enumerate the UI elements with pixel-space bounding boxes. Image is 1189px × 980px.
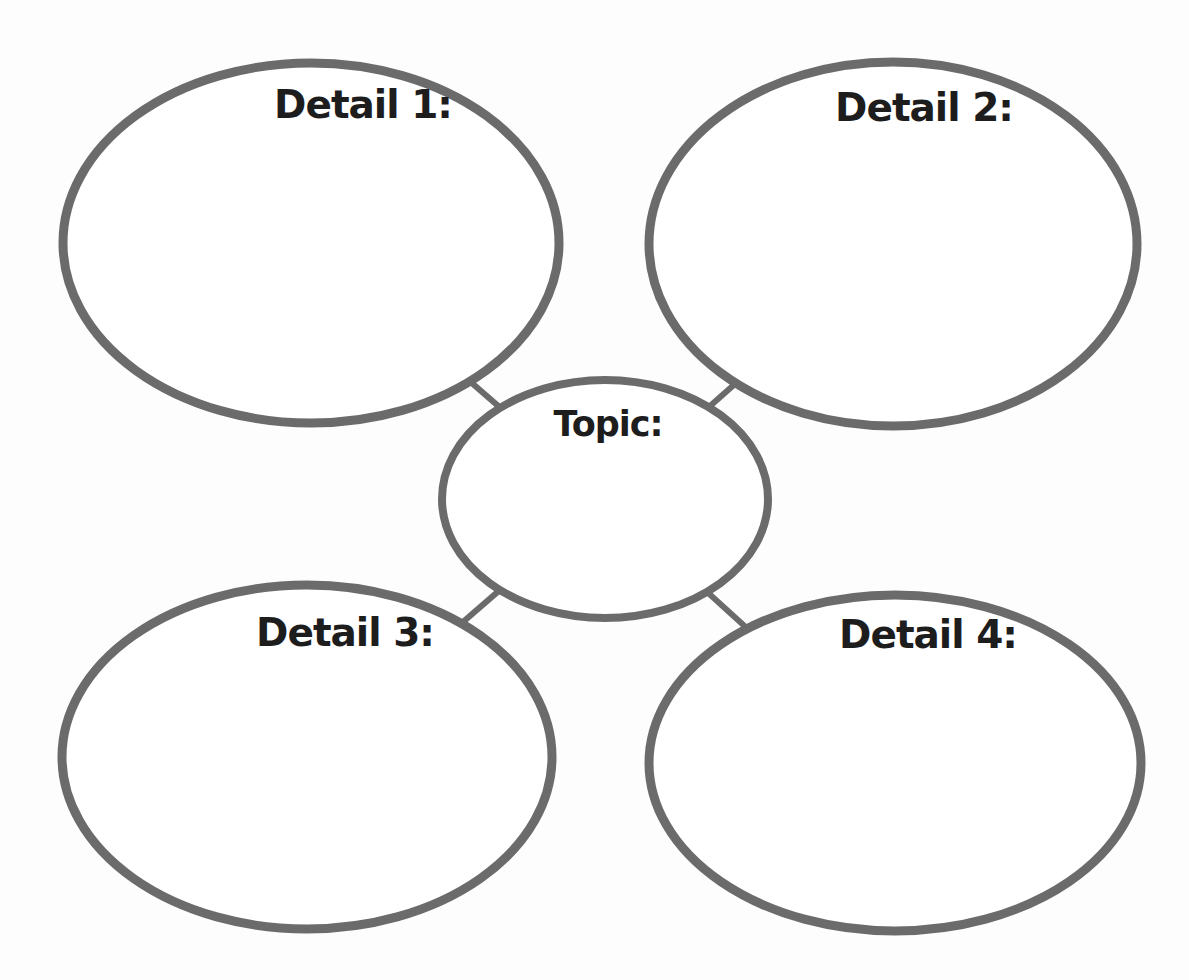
detail-3-label: Detail 3: <box>256 610 434 655</box>
nodes <box>62 62 1141 931</box>
topic-label: Topic: <box>553 404 662 444</box>
detail-4-label: Detail 4: <box>839 612 1017 657</box>
topic-details-diagram: Detail 1: Detail 2: Detail 3: Detail 4: … <box>0 0 1189 980</box>
worksheet-page: Detail 1: Detail 2: Detail 3: Detail 4: … <box>0 0 1189 980</box>
detail-1-label: Detail 1: <box>274 82 452 127</box>
detail-2-label: Detail 2: <box>835 85 1013 130</box>
